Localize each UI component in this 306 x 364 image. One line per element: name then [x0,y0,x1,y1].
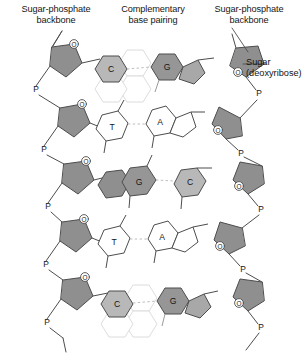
label-sugar-deoxyribose: Sugar (deoxyribose) [246,57,306,80]
sugar-left-5: O [61,273,93,310]
phosphate-left-1: P [33,84,39,94]
base-pair-rung-2: T A [90,100,205,153]
oxygen-label: O [218,243,223,250]
ring-stub [152,136,154,148]
backbone-segment-left [49,270,63,280]
base-left-2-label: T [109,122,115,132]
backbone-segment-left [39,95,60,108]
backbone-segment-right [232,34,236,48]
phosphate-label: P [45,201,51,211]
base-right-1-purine-pentagon [179,60,205,84]
ring-stub [147,155,152,166]
base-right-3-label: C [187,177,193,187]
phosphate-label: P [43,259,49,269]
phosphate-label: P [258,204,264,214]
backbone-segment-left [47,155,64,164]
ring-stub [162,314,165,326]
phosphate-label: P [258,322,264,332]
glycosidic-bond-right [193,224,208,227]
sugar-right-3: O [233,162,264,194]
sugar-right-5: O [233,279,264,311]
backbone-segment-right [242,215,259,228]
sugar-right-2: O [212,107,242,139]
backbone-segment-right [240,100,257,118]
oxygen-label: O [237,183,242,190]
backbone-segment-left [47,299,61,319]
oxygen-label: O [83,274,88,281]
sugar-right-4: O [214,222,245,254]
phosphate-label: P [41,144,47,154]
base-right-5-purine-pentagon [185,294,211,318]
phosphate-right-3: P [258,204,264,214]
base-pair-rung-1: C G [82,50,214,102]
base-right-4-label: A [159,232,165,242]
base-right-2-label: A [157,117,163,127]
oxygen-label: O [216,127,221,134]
backbone-segment-left [36,66,50,86]
phosphate-label: P [44,317,50,327]
backbone-segment-left [48,183,62,203]
phosphate-left-5: P [44,317,50,327]
base-right-5-label: G [170,296,177,306]
ring-stub [106,256,108,268]
phosphate-left-2: P [41,144,47,154]
phosphate-right-2: P [238,148,244,158]
label-complementary-base-pairing: Complementary base pairing [104,4,202,26]
base-left-4-label: T [111,237,117,247]
backbone-segment-left [63,338,66,352]
backbone-segment-right [229,254,240,266]
base-pair-rung-3: G C [94,155,212,209]
backbone-segment-right [226,139,238,150]
ring-stub [181,197,182,209]
dna-ladder-graphic: O P O P O [0,0,306,364]
hydrogen-bonds [156,180,174,181]
glycosidic-bond-right [204,291,218,294]
right-sugar-phosphate-backbone: O P O P O [212,34,264,350]
leader-left-backbone [53,31,62,46]
glycosidic-bond-right [198,58,214,60]
phosphate-right-1: P [256,88,262,98]
sugar-left-2: O [58,100,90,137]
backbone-segment-left [50,328,63,338]
oxygen-label: O [82,216,87,223]
phosphate-left-3: P [45,201,51,211]
backbone-segment-right [248,194,258,206]
backbone-segment-left [44,126,58,146]
backbone-segment-left [46,241,60,261]
phosphate-label: P [238,148,244,158]
ring-stub [104,141,106,153]
ring-stub [155,80,159,92]
phosphate-label: P [33,84,39,94]
phosphate-left-4: P [43,259,49,269]
oxygen-label: O [236,69,241,76]
base-left-1-label: C [108,64,114,74]
oxygen-label: O [237,300,242,307]
ring-stub [154,251,156,263]
ring-stub [129,196,130,208]
dna-structure-diagram: O P O P O [0,0,306,364]
base-left-3-label: G [136,177,143,187]
ring-stub [120,215,126,226]
phosphate-label: P [256,88,262,98]
oxygen-label: O [84,158,89,165]
backbone-segment-right [246,333,259,350]
base-pair-rung-5: C G [93,285,218,337]
backbone-segment-left [51,212,62,222]
left-sugar-phosphate-backbone: O P O P O [33,31,94,352]
label-left-sugar-phosphate-backbone: Sugar-phosphate backbone [2,4,110,26]
phosphate-right-5: P [258,322,264,332]
base-right-1-label: G [164,62,171,72]
base-left-5-label: C [114,299,120,309]
label-right-sugar-phosphate-backbone: Sugar-phosphate backbone [196,4,302,26]
phosphate-label: P [240,264,246,274]
sugar-left-3: O [62,157,94,194]
oxygen-label: O [80,101,85,108]
phosphate-right-4: P [240,264,246,274]
base-pair-rung-4: T A [92,215,208,268]
glycosidic-bond-left [82,59,100,63]
backbone-segment-right [248,311,258,324]
oxygen-label: O [72,41,77,48]
sugar-left-4: O [60,215,92,252]
sugar-left-1: O [50,40,82,77]
